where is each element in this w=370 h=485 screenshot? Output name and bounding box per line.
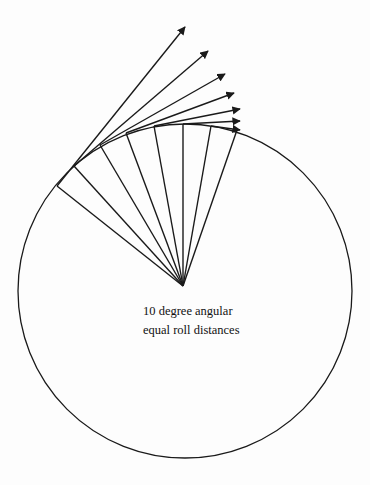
arrow-icon (183, 121, 240, 124)
caption: 10 degree angular equal roll distances (143, 302, 240, 340)
arrow-icon (57, 27, 185, 186)
arrow-icon (74, 51, 208, 166)
radius-line (183, 126, 211, 286)
radius-line (183, 130, 237, 286)
caption-line-2: equal roll distances (143, 321, 240, 340)
radius-lines (57, 124, 237, 286)
rolling-circle (18, 124, 352, 458)
tangent-arrows (57, 27, 240, 186)
radius-line (74, 166, 183, 286)
roll-diagram (0, 0, 370, 485)
caption-line-1: 10 degree angular (143, 302, 240, 321)
diagram-canvas: 10 degree angular equal roll distances (0, 0, 370, 485)
